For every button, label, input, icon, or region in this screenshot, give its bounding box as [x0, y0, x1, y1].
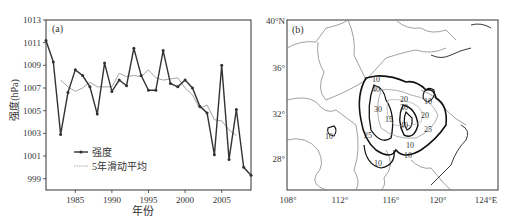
- contour-label: 20: [421, 111, 429, 120]
- legend-label-moving-avg: 5年滑动平均: [92, 160, 147, 172]
- lat-tick-label: 40°N: [266, 16, 286, 26]
- plot-frame: [46, 20, 251, 190]
- data-point-intensity: [184, 79, 187, 82]
- contour-label: 10: [424, 97, 432, 106]
- data-point-intensity: [88, 85, 91, 88]
- y-axis-label: 强度(hPa): [8, 79, 21, 121]
- legend: 强度 5年滑动平均: [74, 146, 147, 172]
- chart-a: 9991001100310051007100910111013198519901…: [0, 0, 256, 224]
- x-axis-label: 年份: [132, 204, 154, 217]
- lat-tick-label: 32°: [272, 109, 285, 119]
- y-tick-label: 1003: [23, 128, 42, 138]
- data-point-intensity: [103, 62, 106, 65]
- data-point-intensity: [206, 111, 209, 114]
- data-point-intensity: [140, 74, 143, 77]
- contour-label: 20: [400, 95, 408, 104]
- contour-label: 10: [404, 151, 412, 160]
- data-point-intensity: [59, 133, 62, 136]
- x-tick-label: 2000: [176, 195, 195, 205]
- x-tick-label: 1985: [66, 195, 85, 205]
- contour-label: 10: [325, 132, 333, 141]
- lon-tick-label: 112°: [332, 195, 349, 205]
- contour-label: 15: [385, 115, 393, 124]
- lon-tick-label: 116°: [383, 195, 400, 205]
- data-point-intensity: [96, 113, 99, 116]
- lat-tick-label: 36°: [272, 63, 285, 73]
- data-point-intensity: [118, 79, 121, 82]
- data-point-intensity: [176, 85, 179, 88]
- data-point-intensity: [235, 108, 238, 111]
- data-point-intensity: [125, 84, 128, 87]
- map-lat-ticks: 28° 32° 36° 40°N: [266, 16, 286, 164]
- data-point-intensity: [162, 49, 165, 52]
- y-tick-label: 1013: [23, 15, 42, 25]
- lon-tick-label: 120°: [429, 195, 447, 205]
- contour-label: 30: [374, 105, 382, 114]
- contour-label: 10: [406, 141, 414, 150]
- contour-label: 30: [400, 103, 408, 112]
- map-b: (b) 10 10 10 10 15 20 25 25: [256, 0, 511, 224]
- legend-marker-intensity: [79, 150, 82, 153]
- data-point-intensity: [198, 105, 201, 108]
- chart-a-plot: [45, 39, 253, 177]
- y-tick-label: 1005: [23, 106, 42, 116]
- data-point-intensity: [81, 74, 84, 77]
- data-point-intensity: [154, 89, 157, 92]
- legend-label-intensity: 强度: [92, 146, 112, 158]
- contour-label: 10: [372, 75, 380, 84]
- data-point-intensity: [250, 174, 253, 177]
- y-tick-label: 999: [28, 174, 42, 184]
- data-point-intensity: [52, 60, 55, 63]
- lat-tick-label: 28°: [272, 154, 285, 164]
- y-tick-label: 1011: [23, 38, 41, 48]
- data-point-intensity: [242, 166, 245, 169]
- contour-label: 25: [364, 131, 372, 140]
- data-point-intensity: [228, 158, 231, 161]
- x-tick-label: 1995: [140, 195, 159, 205]
- contour-label: 40: [400, 121, 408, 130]
- data-point-intensity: [220, 64, 223, 67]
- data-point-intensity: [110, 90, 113, 93]
- contour-label: 25: [424, 125, 432, 134]
- panel-label-b: (b): [292, 24, 304, 36]
- y-tick-label: 1007: [23, 83, 42, 93]
- map-lon-ticks: 108° 112° 116° 120° 124°E: [279, 195, 497, 205]
- panel-label-a: (a): [52, 23, 63, 35]
- data-point-intensity: [169, 82, 172, 85]
- data-point-intensity: [45, 39, 48, 42]
- x-tick-label: 2005: [213, 195, 232, 205]
- contour-label: 10: [374, 159, 382, 168]
- data-point-intensity: [213, 153, 216, 156]
- data-point-intensity: [132, 47, 135, 50]
- chart-a-axes: 9991001100310051007100910111013198519901…: [23, 15, 251, 205]
- series-line-intensity: [46, 40, 251, 175]
- contour-label: 40: [372, 85, 380, 94]
- data-point-intensity: [66, 91, 69, 94]
- lon-tick-label: 124°E: [475, 195, 498, 205]
- y-tick-label: 1009: [23, 60, 42, 70]
- y-tick-label: 1001: [23, 151, 41, 161]
- lon-tick-label: 108°: [279, 195, 297, 205]
- x-tick-label: 1990: [103, 195, 122, 205]
- data-point-intensity: [147, 89, 150, 92]
- data-point-intensity: [191, 87, 194, 90]
- data-point-intensity: [74, 68, 77, 71]
